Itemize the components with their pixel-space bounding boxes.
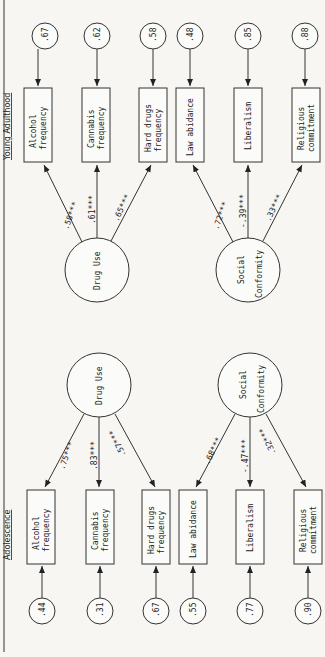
error-term: .85 — [235, 23, 261, 49]
svg-text:Cannabis: Cannabis — [87, 109, 96, 148]
indicator-box: Alcohol frequency — [24, 88, 52, 162]
svg-text:Alcohol: Alcohol — [32, 516, 41, 550]
svg-text:.48: .48 — [186, 27, 195, 42]
svg-text:frequency: frequency — [101, 508, 110, 552]
section-title-young-adulthood: Young Adulthood — [3, 93, 12, 161]
svg-text:commitment: commitment — [309, 506, 318, 554]
error-term: .55 — [180, 598, 206, 624]
svg-text:.44: .44 — [38, 602, 47, 617]
indicator-box: Liberalism — [234, 88, 262, 162]
indicator-box: Liberalism — [236, 490, 264, 564]
svg-text:Religious: Religious — [297, 106, 306, 150]
error-term: .67 — [32, 23, 58, 49]
error-term: .77 — [237, 598, 263, 624]
indicator-box: Cannabis frequency — [82, 88, 110, 162]
indicator-box: Religious commitment — [294, 490, 322, 564]
svg-text:Conformity: Conformity — [255, 250, 264, 298]
indicator-box: Hard drugs frequency — [142, 490, 170, 564]
svg-text:Drug Use: Drug Use — [95, 366, 104, 405]
svg-text:Law abidance: Law abidance — [189, 500, 198, 558]
svg-text:frequency: frequency — [42, 508, 51, 552]
latent-social-conformity: Social Conformity — [218, 353, 282, 417]
svg-text:frequency: frequency — [157, 510, 166, 554]
svg-text:Social: Social — [237, 255, 246, 284]
svg-text:.31: .31 — [96, 602, 105, 617]
young-adulthood-model: .67 .62 .58 .48 .85 .88 Alcohol frequenc… — [24, 23, 320, 302]
indicator-box: Law abidance — [179, 490, 207, 564]
sem-diagram: Young Adulthood Adolescence .67 .62 .58 … — [0, 0, 325, 657]
loading-label: .75*** — [57, 440, 75, 470]
svg-text:Hard drugs: Hard drugs — [144, 104, 153, 152]
latent-drug-use: Drug Use — [65, 238, 129, 302]
svg-text:Cannabis: Cannabis — [91, 511, 100, 550]
svg-text:Hard drugs: Hard drugs — [147, 506, 156, 554]
indicator-box: Religious commitment — [292, 88, 320, 162]
svg-text:commitment: commitment — [307, 104, 316, 152]
latent-social-conformity: Social Conformity — [216, 238, 280, 302]
svg-text:Liberalism: Liberalism — [246, 504, 255, 552]
error-term: .44 — [29, 598, 55, 624]
error-term: .62 — [84, 23, 110, 49]
loading-label: .33*** — [264, 193, 284, 223]
svg-text:.90: .90 — [304, 602, 313, 617]
indicator-box: Alcohol frequency — [27, 490, 55, 564]
svg-text:.55: .55 — [189, 602, 198, 617]
svg-text:Religious: Religious — [299, 508, 308, 552]
loading-label: .83*** — [90, 441, 99, 470]
indicator-box: Hard drugs frequency — [139, 88, 167, 162]
indicator-box: Cannabis frequency — [86, 490, 114, 564]
svg-text:.77: .77 — [246, 602, 255, 617]
svg-text:frequency: frequency — [39, 106, 48, 150]
svg-text:.88: .88 — [301, 27, 310, 42]
adolescence-model: Drug Use Social Conformity .75*** .83***… — [27, 353, 322, 624]
svg-text:.58: .58 — [149, 27, 158, 42]
svg-text:Liberalism: Liberalism — [244, 102, 253, 150]
svg-text:Conformity: Conformity — [257, 365, 266, 413]
svg-text:frequency: frequency — [97, 106, 106, 150]
svg-text:frequency: frequency — [154, 108, 163, 152]
error-term: .48 — [177, 23, 203, 49]
loading-label: -.47*** — [241, 439, 250, 473]
indicator-box: Law abidance — [176, 88, 204, 162]
svg-text:Law abidance: Law abidance — [186, 98, 195, 156]
loading-label: .68*** — [203, 436, 223, 466]
error-term: .90 — [295, 598, 321, 624]
svg-text:.67: .67 — [152, 602, 161, 617]
svg-text:Alcohol: Alcohol — [29, 114, 38, 148]
error-term: .88 — [292, 23, 318, 49]
svg-text:.85: .85 — [244, 27, 253, 42]
error-term: .31 — [87, 598, 113, 624]
error-term: .58 — [140, 23, 166, 49]
svg-text:.67: .67 — [41, 27, 50, 42]
svg-text:Social: Social — [239, 370, 248, 399]
svg-text:Drug Use: Drug Use — [93, 251, 102, 290]
section-title-adolescence: Adolescence — [3, 510, 12, 560]
svg-text:.62: .62 — [93, 27, 102, 42]
loading-label: -.39*** — [239, 194, 248, 228]
error-term: .67 — [143, 598, 169, 624]
loading-label: .61*** — [88, 195, 97, 224]
latent-drug-use: Drug Use — [67, 353, 131, 417]
